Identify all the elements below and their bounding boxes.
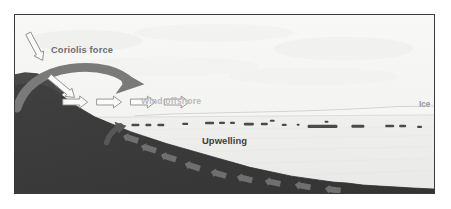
diagram-canvas <box>15 15 434 193</box>
upwelling-diagram-figure: Coriolis force Wind offshore Upwelling I… <box>14 14 435 194</box>
